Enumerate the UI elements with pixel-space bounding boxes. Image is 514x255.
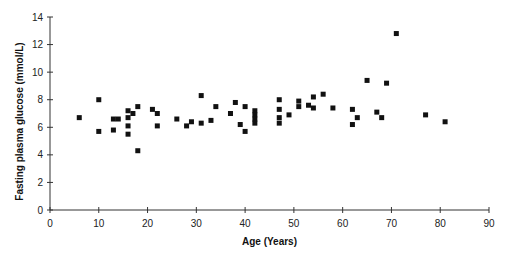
data-point <box>77 115 82 120</box>
x-tick-label: 30 <box>191 218 203 229</box>
data-point <box>126 132 131 137</box>
data-point <box>184 123 189 128</box>
data-point <box>374 110 379 115</box>
data-point <box>126 123 131 128</box>
data-point <box>126 115 131 120</box>
x-tick-label: 90 <box>483 218 495 229</box>
data-point <box>116 117 121 122</box>
scatter-chart: 02468101214 0102030405060708090 Age (Yea… <box>0 0 514 255</box>
x-axis-title: Age (Years) <box>242 236 297 247</box>
data-point <box>365 78 370 83</box>
data-point <box>174 117 179 122</box>
data-points <box>77 31 448 153</box>
x-tick-label: 0 <box>47 218 53 229</box>
data-point <box>287 112 292 117</box>
data-point <box>306 103 311 108</box>
y-tick-label: 12 <box>32 39 44 50</box>
data-point <box>355 115 360 120</box>
data-point <box>208 118 213 123</box>
data-point <box>199 121 204 126</box>
data-point <box>296 99 301 104</box>
y-tick-label: 6 <box>37 122 43 133</box>
data-point <box>394 31 399 36</box>
data-point <box>277 107 282 112</box>
x-tick-label: 80 <box>435 218 447 229</box>
data-point <box>384 81 389 86</box>
data-point <box>233 100 238 105</box>
data-point <box>350 122 355 127</box>
data-point <box>350 107 355 112</box>
x-tick-label: 20 <box>142 218 154 229</box>
data-point <box>443 119 448 124</box>
data-point <box>96 97 101 102</box>
y-tick-label: 0 <box>37 205 43 216</box>
y-tick-label: 4 <box>37 149 43 160</box>
data-point <box>135 104 140 109</box>
data-point <box>111 117 116 122</box>
data-point <box>243 104 248 109</box>
data-point <box>96 129 101 134</box>
y-tick-label: 10 <box>32 67 44 78</box>
data-point <box>155 111 160 116</box>
data-point <box>155 123 160 128</box>
data-point <box>135 148 140 153</box>
x-tick-label: 50 <box>288 218 300 229</box>
data-point <box>252 121 257 126</box>
data-point <box>277 115 282 120</box>
y-tick-label: 14 <box>32 12 44 23</box>
data-point <box>150 107 155 112</box>
y-axis-title: Fasting plasma glucose (mmol/L) <box>14 42 25 200</box>
y-tick-label: 8 <box>37 94 43 105</box>
data-point <box>321 92 326 97</box>
data-point <box>130 111 135 116</box>
x-tick-label: 60 <box>337 218 349 229</box>
data-point <box>277 97 282 102</box>
data-point <box>330 105 335 110</box>
data-point <box>423 112 428 117</box>
data-point <box>311 105 316 110</box>
data-point <box>126 108 131 113</box>
data-point <box>189 119 194 124</box>
x-tick-label: 10 <box>93 218 105 229</box>
data-point <box>213 104 218 109</box>
data-point <box>199 93 204 98</box>
data-point <box>111 128 116 133</box>
data-point <box>379 115 384 120</box>
x-tick-label: 40 <box>240 218 252 229</box>
data-point <box>296 104 301 109</box>
x-tick-label: 70 <box>386 218 398 229</box>
y-tick-label: 2 <box>37 177 43 188</box>
data-point <box>238 122 243 127</box>
data-point <box>311 94 316 99</box>
data-point <box>277 121 282 126</box>
data-point <box>228 111 233 116</box>
data-point <box>243 129 248 134</box>
